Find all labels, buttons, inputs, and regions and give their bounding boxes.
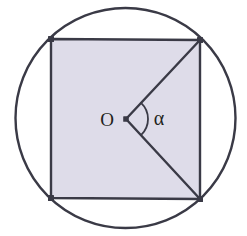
angle-label: α xyxy=(154,107,165,129)
figure-canvas: O α xyxy=(0,0,247,236)
geometry-figure: O α xyxy=(0,0,247,236)
vertex-bottom-right-marker xyxy=(197,196,203,202)
vertex-top-left-marker xyxy=(48,36,54,42)
vertex-top-right-marker xyxy=(197,37,203,43)
center-point-marker xyxy=(123,116,129,122)
vertex-bottom-left-marker xyxy=(48,195,54,201)
center-label: O xyxy=(100,109,114,130)
